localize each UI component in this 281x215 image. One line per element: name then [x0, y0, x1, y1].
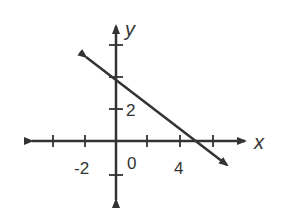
x-axis-label: x — [253, 131, 265, 153]
y-tick-label-2: 2 — [126, 101, 135, 120]
x-tick-label-4: 4 — [174, 159, 183, 178]
coordinate-plane: -2 0 4 2 x y — [0, 0, 281, 215]
y-axis-label: y — [123, 18, 136, 40]
x-tick-label-neg2: -2 — [74, 159, 89, 178]
x-tick-label-0: 0 — [127, 154, 136, 173]
plotted-line — [86, 57, 227, 165]
